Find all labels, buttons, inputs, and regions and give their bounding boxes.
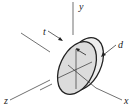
label-z: z — [4, 96, 8, 106]
x-axis-line — [96, 88, 122, 100]
label-d: d — [118, 40, 123, 50]
label-x: x — [124, 96, 128, 106]
z-axis-line — [10, 80, 50, 100]
diagram-disk-axes: y t d z x — [0, 0, 133, 110]
label-t: t — [43, 27, 46, 37]
label-y: y — [79, 2, 83, 12]
disk-drawing — [0, 0, 133, 110]
thickness-tick — [40, 84, 52, 90]
